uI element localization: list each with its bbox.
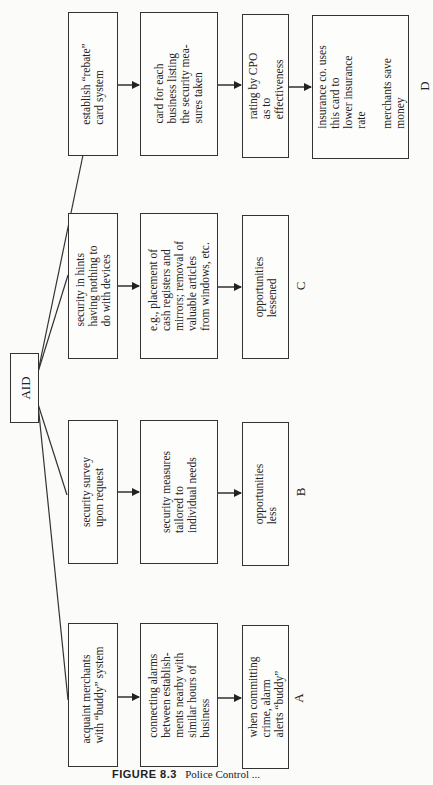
step-text: security survey upon request (80, 457, 106, 527)
branch-d-step-4: insurance co. uses this card to lower in… (312, 15, 409, 159)
step-text: rating by CPO as to effectiveness (246, 53, 285, 119)
branch-label-c: C (293, 282, 309, 291)
step-text: when committing crime, alarm alerts “bud… (246, 657, 285, 738)
figure-caption: FIGURE 8.3 Police Control ... (112, 768, 260, 780)
branch-c-step-3: opportunities lessened (242, 215, 289, 359)
branch-a-step-3: when committing crime, alarm alerts “bud… (242, 625, 289, 769)
step-text: e.g., placement of cash registers and mi… (147, 241, 212, 331)
step-text: opportunities less (253, 464, 279, 525)
branch-a-step-1: acquaint merchants with “buddy” system (68, 623, 118, 767)
branch-d-step-2: card for each business listing the secur… (140, 12, 218, 156)
branch-c-step-1: security in hints having nothing to do w… (68, 213, 118, 359)
figure-caption-text: Police Control ... (185, 768, 260, 780)
figure-number: FIGURE 8.3 (112, 768, 177, 780)
branch-label-d: D (417, 81, 433, 90)
root-node-label: AID (18, 376, 31, 399)
branch-a-step-2: connecting alarms between establish- men… (140, 623, 218, 767)
step-text: establish “rebate” card system (80, 43, 106, 124)
branch-b-step-2: security measures tailored to individual… (140, 420, 218, 564)
step-text: insurance co. uses this card to lower in… (315, 45, 406, 128)
branch-label-b: B (293, 488, 309, 497)
branch-d-step-1: establish “rebate” card system (68, 12, 118, 156)
branch-c-step-2: e.g., placement of cash registers and mi… (140, 213, 218, 359)
branch-b-step-3: opportunities less (242, 422, 289, 566)
step-text: security in hints having nothing to do w… (74, 245, 113, 326)
branch-d-step-3: rating by CPO as to effectiveness (242, 14, 289, 158)
root-node-aid: AID (10, 353, 39, 423)
step-text: acquaint merchants with “buddy” system (80, 646, 106, 743)
step-text: opportunities lessened (253, 257, 279, 318)
step-text: card for each business listing the secur… (153, 44, 205, 123)
branch-b-step-1: security survey upon request (68, 420, 118, 564)
branch-label-a: A (291, 693, 307, 702)
step-text: connecting alarms between establish- men… (147, 652, 212, 737)
step-text: security measures tailored to individual… (160, 451, 199, 533)
